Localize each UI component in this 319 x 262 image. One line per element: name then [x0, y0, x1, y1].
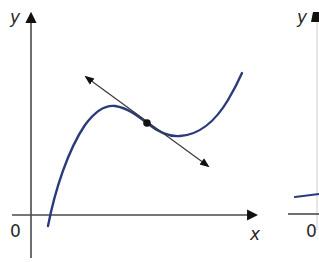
cubic-curve — [48, 73, 242, 226]
right-graph: y 0 — [288, 7, 319, 241]
right-curve — [295, 194, 319, 197]
origin-label: 0 — [10, 221, 21, 241]
left-graph: y x 0 — [9, 7, 261, 258]
x-axis-label: x — [249, 224, 261, 244]
tangent-diagram: y x 0 y 0 — [0, 0, 319, 262]
y-axis-label: y — [9, 7, 21, 27]
right-origin-label: 0 — [306, 221, 317, 241]
right-y-axis-label: y — [296, 7, 308, 27]
tangent-point — [143, 119, 151, 127]
right-y-axis-arrow-icon — [311, 12, 319, 22]
